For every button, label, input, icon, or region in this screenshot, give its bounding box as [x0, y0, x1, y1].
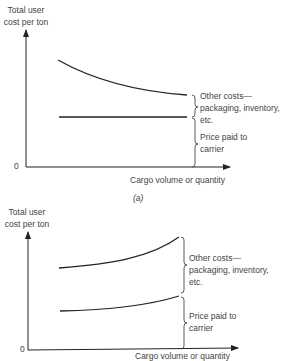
brace-upper-b: [181, 237, 187, 293]
brace-lower-b: [181, 297, 187, 349]
brace-upper-label-b: Other costs— packaging, inventory, etc.: [189, 252, 269, 288]
brace-upper-line1: Other costs—: [189, 252, 269, 264]
carrier-price-curve-b: [60, 296, 179, 311]
x-axis-label-a: Cargo volume or quantity: [130, 174, 225, 186]
total-cost-curve-a: [58, 60, 187, 95]
x-axis-label-b: Cargo volume or quantity: [135, 350, 230, 361]
brace-lower-line1: Price paid to: [189, 310, 236, 322]
origin-label-b: 0: [20, 343, 25, 355]
brace-lower-line1: Price paid to: [200, 131, 247, 143]
brace-upper-label-a: Other costs— packaging, inventory, etc.: [200, 90, 280, 126]
y-axis-label-line2: cost per ton: [0, 16, 52, 28]
brace-lower-line2: carrier: [200, 143, 247, 155]
y-axis-label-a: Total user cost per ton: [0, 4, 52, 28]
figure-caption-a: (a): [133, 192, 143, 204]
y-axis-label-line2: cost per ton: [0, 218, 54, 230]
y-axis-label-line1: Total user: [0, 4, 52, 16]
brace-lower-a: [192, 118, 198, 167]
brace-upper-line3: etc.: [200, 114, 280, 126]
y-axis-label-b: Total user cost per ton: [0, 206, 54, 230]
brace-upper-line3: etc.: [189, 276, 269, 288]
brace-lower-label-b: Price paid to carrier: [189, 310, 236, 334]
brace-lower-label-a: Price paid to carrier: [200, 131, 247, 155]
brace-upper-line2: packaging, inventory,: [189, 264, 269, 276]
total-cost-curve-b: [59, 237, 179, 268]
brace-upper-line2: packaging, inventory,: [200, 102, 280, 114]
brace-upper-a: [192, 95, 198, 117]
brace-lower-line2: carrier: [189, 322, 236, 334]
origin-label-a: 0: [14, 160, 19, 172]
brace-upper-line1: Other costs—: [200, 90, 280, 102]
y-axis-label-line1: Total user: [0, 206, 54, 218]
